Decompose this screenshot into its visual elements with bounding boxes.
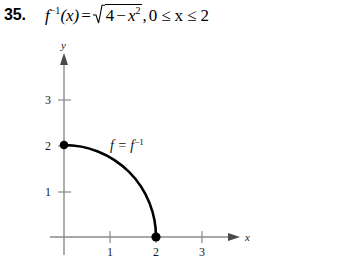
x-tick-label-2: 2 bbox=[153, 245, 159, 259]
x-tick-label-3: 3 bbox=[199, 245, 205, 259]
domain-variable: x bbox=[173, 6, 186, 25]
domain-relation-right: ≤ bbox=[185, 6, 198, 25]
x-tick-label-1: 1 bbox=[107, 245, 113, 259]
graph-figure: y x 1 2 3 1 2 3 f = f−1 bbox=[0, 33, 358, 264]
endpoint-dot-2-0 bbox=[151, 232, 160, 241]
endpoint-dot-0-2 bbox=[60, 141, 69, 150]
domain-upper-bound: 2 bbox=[198, 6, 211, 25]
y-tick-label-1: 1 bbox=[45, 185, 51, 199]
radicand-operator: − bbox=[114, 6, 128, 25]
domain-relation-left: ≤ bbox=[159, 6, 172, 25]
x-axis-label: x bbox=[244, 231, 250, 243]
inverse-exponent: −1 bbox=[50, 5, 61, 16]
curve-label: f = f−1 bbox=[110, 137, 144, 153]
square-root-expression: 4−x2 bbox=[93, 4, 143, 26]
y-axis-arrowhead-icon bbox=[60, 53, 68, 65]
problem-expression: f−1(x)=4−x2,0≤x≤2 bbox=[45, 4, 211, 26]
equals-sign: = bbox=[79, 6, 93, 25]
function-curve bbox=[64, 145, 156, 237]
y-tick-label-3: 3 bbox=[45, 93, 51, 107]
function-argument: (x) bbox=[60, 6, 79, 25]
y-axis-label: y bbox=[60, 39, 66, 51]
curve-label-text: f = f bbox=[110, 138, 136, 153]
radicand: 4−x2 bbox=[105, 4, 143, 26]
problem-number: 35. bbox=[4, 6, 26, 24]
domain-lower-bound: 0 bbox=[147, 6, 160, 25]
curve-label-exponent: −1 bbox=[134, 137, 144, 147]
y-tick-label-2: 2 bbox=[45, 139, 51, 153]
radicand-exponent: 2 bbox=[135, 5, 140, 16]
problem-statement: 35. f−1(x)=4−x2,0≤x≤2 bbox=[0, 2, 358, 32]
x-axis-arrowhead-icon bbox=[228, 233, 240, 241]
radical-sign-icon bbox=[93, 4, 105, 24]
